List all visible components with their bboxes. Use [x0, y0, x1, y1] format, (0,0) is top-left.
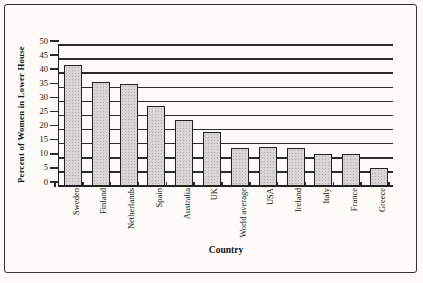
x-label-france: France: [349, 188, 360, 211]
bar-ireland: [287, 148, 305, 186]
y-tick-label-15: 15: [21, 135, 48, 144]
y-tick-5: [50, 167, 59, 169]
x-tick-8: [277, 182, 279, 187]
x-tick-1: [82, 182, 84, 187]
y-tick-50: [50, 40, 59, 42]
x-tick-10: [333, 182, 335, 187]
plot-area: [59, 45, 393, 186]
x-label-italy: Italy: [321, 188, 332, 204]
y-tick-label-20: 20: [21, 121, 48, 130]
y-tick-10: [50, 153, 59, 155]
y-tick-30: [50, 97, 59, 99]
x-tick-6: [221, 182, 223, 187]
bar-finland: [92, 82, 110, 186]
x-label-sweden: Sweden: [70, 188, 81, 215]
bar-france: [342, 154, 360, 186]
y-tick-40: [50, 68, 59, 70]
x-tick-9: [305, 182, 307, 187]
y-tick-label-35: 35: [21, 79, 48, 88]
x-axis-title: Country: [59, 245, 393, 255]
y-tick-label-30: 30: [21, 93, 48, 102]
x-label-world-average: World average: [237, 188, 248, 238]
y-tick-25: [50, 111, 59, 113]
x-axis-line: [58, 185, 393, 187]
y-tick-label-10: 10: [21, 149, 48, 158]
y-tick-label-5: 5: [21, 163, 48, 172]
scanned-chart-page: Percent of Women in Lower House Country …: [0, 0, 423, 283]
chart-frame: Percent of Women in Lower House Country …: [4, 4, 417, 273]
y-tick-label-50: 50: [21, 37, 48, 46]
x-label-uk: UK: [210, 188, 221, 200]
x-tick-2: [110, 182, 112, 187]
gridline-45: [59, 58, 393, 60]
x-tick-12: [388, 182, 390, 187]
bar-spain: [147, 106, 165, 186]
y-tick-15: [50, 139, 59, 141]
x-label-finland: Finland: [98, 188, 109, 214]
y-tick-45: [50, 54, 59, 56]
bar-australia: [175, 120, 193, 186]
x-label-usa: USA: [265, 188, 276, 205]
bar-usa: [259, 147, 277, 186]
x-tick-0: [54, 182, 56, 187]
bar-greece: [370, 168, 388, 186]
bar-world-average: [231, 148, 249, 186]
bar-sweden: [64, 65, 82, 186]
bar-uk: [203, 132, 221, 186]
x-tick-5: [193, 182, 195, 187]
y-axis-line: [58, 44, 60, 188]
x-label-greece: Greece: [377, 188, 388, 212]
y-tick-label-45: 45: [21, 51, 48, 60]
y-tick-label-25: 25: [21, 107, 48, 116]
y-tick-label-40: 40: [21, 65, 48, 74]
x-tick-4: [166, 182, 168, 187]
gridline-40: [59, 72, 393, 74]
y-tick-label-0: 0: [21, 178, 48, 187]
gridline-50: [59, 44, 393, 46]
y-tick-20: [50, 125, 59, 127]
x-label-spain: Spain: [154, 188, 165, 207]
bar-italy: [314, 154, 332, 186]
x-label-ireland: Ireland: [293, 188, 304, 212]
x-label-australia: Australia: [182, 188, 193, 219]
x-tick-7: [249, 182, 251, 187]
x-tick-3: [138, 182, 140, 187]
x-label-netherlands: Netherlands: [126, 188, 137, 229]
bar-netherlands: [120, 84, 138, 186]
y-tick-35: [50, 83, 59, 85]
x-tick-11: [360, 182, 362, 187]
